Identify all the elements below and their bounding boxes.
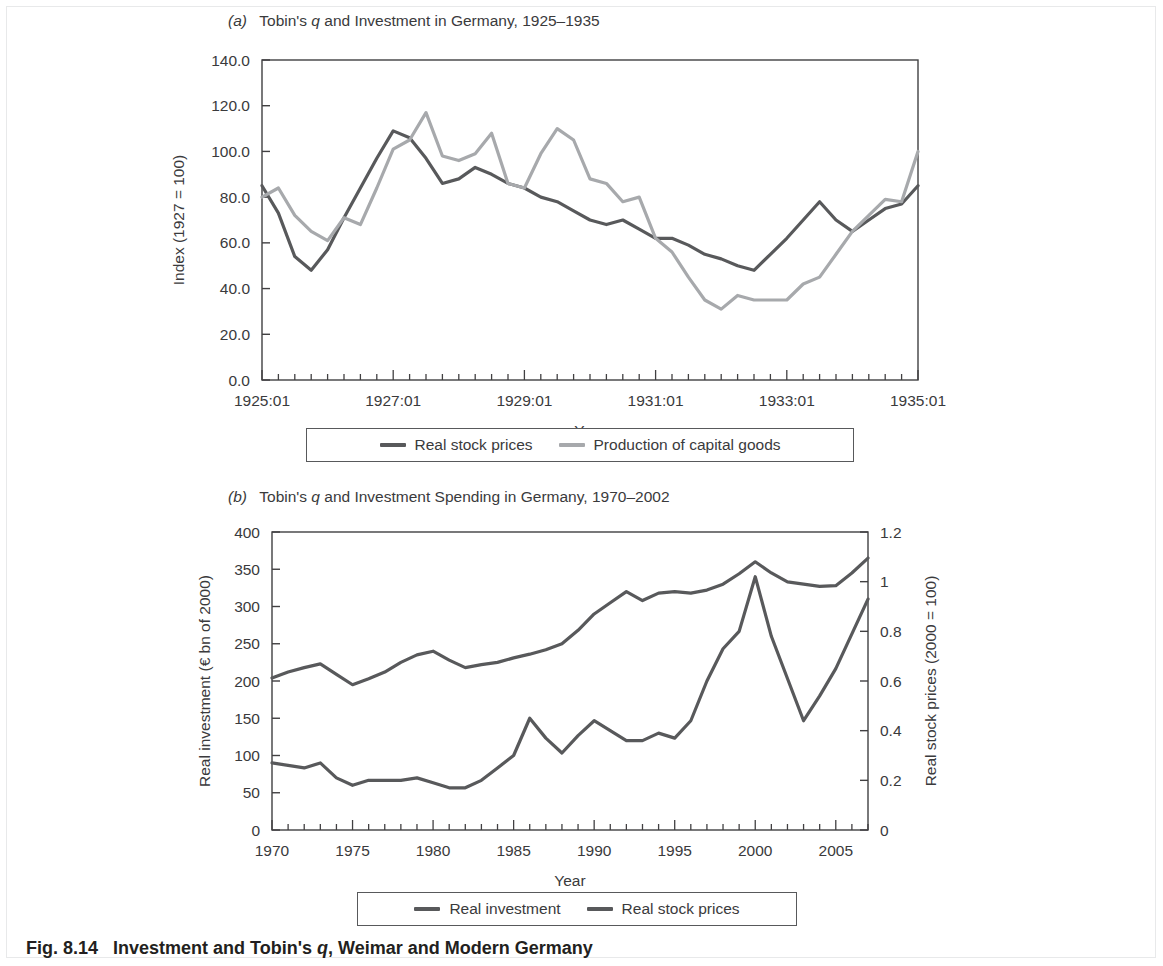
legend-item-label: Real stock prices	[622, 900, 740, 918]
panel-b-y-left-tick-label: 350	[234, 561, 260, 578]
panel-b-legend-item: Real stock prices	[587, 900, 740, 918]
panel-b-y-right-tick-label: 1	[880, 573, 889, 590]
panel-b-x-tick-label: 1975	[335, 842, 369, 859]
panel-b-x-tick-label: 1995	[657, 842, 691, 859]
panel-a-y-tick-label: 80.0	[220, 189, 251, 206]
legend-color-swatch	[380, 443, 406, 447]
panel-b-y-right-tick-label: 0.6	[880, 673, 902, 690]
panel-a-y-tick-label: 40.0	[220, 280, 251, 297]
panel-b-y-right-tick-label: 1.2	[880, 524, 902, 541]
panel-b-y-right-tick-label: 0.4	[880, 722, 902, 739]
panel-a-title: (a) Tobin's q and Investment in Germany,…	[228, 12, 600, 30]
legend-color-swatch	[414, 907, 440, 911]
panel-b-y-left-axis-title: Real investment (€ bn of 2000)	[196, 575, 213, 787]
panel-a-label: (a)	[228, 12, 247, 29]
panel-a-x-tick-label: 1935:01	[890, 392, 946, 409]
figure-caption-number: Fig. 8.14	[26, 938, 98, 958]
panel-a-x-tick-label: 1929:01	[496, 392, 552, 409]
panel-a-series-real-stock-prices	[262, 131, 918, 270]
panel-b-y-left-tick-label: 400	[234, 524, 260, 541]
panel-a-title-text: Tobin's q and Investment in Germany, 192…	[259, 12, 599, 29]
panel-b-x-tick-label: 1990	[577, 842, 612, 859]
legend-item-label: Real investment	[449, 900, 560, 918]
panel-b-y-left-tick-label: 300	[234, 598, 260, 615]
panel-b-y-left-tick-label: 50	[243, 784, 261, 801]
panel-a-y-tick-label: 60.0	[220, 234, 251, 251]
panel-b-y-right-tick-label: 0.2	[880, 772, 902, 789]
panel-b-x-tick-label: 2005	[819, 842, 853, 859]
panel-b-x-tick-label: 1985	[496, 842, 530, 859]
legend-item-label: Real stock prices	[415, 436, 533, 454]
panel-b-y-left-tick-label: 200	[234, 673, 260, 690]
panel-b-chart: 05010015020025030035040000.20.40.60.811.…	[0, 512, 1163, 892]
panel-a: (a) Tobin's q and Investment in Germany,…	[0, 0, 1163, 480]
panel-a-x-tick-label: 1931:01	[628, 392, 684, 409]
figure-caption: Fig. 8.14 Investment and Tobin's q, Weim…	[26, 938, 1126, 959]
panel-a-legend-item: Production of capital goods	[559, 436, 781, 454]
panel-b: (b) Tobin's q and Investment Spending in…	[0, 480, 1163, 940]
panel-a-y-axis-title: Index (1927 = 100)	[170, 155, 187, 286]
legend-color-swatch	[587, 907, 613, 911]
figure-caption-text: Investment and Tobin's q, Weimar and Mod…	[113, 938, 593, 958]
panel-a-x-tick-label: 1933:01	[759, 392, 815, 409]
panel-b-y-left-tick-label: 250	[234, 635, 260, 652]
panel-b-legend: Real investmentReal stock prices	[357, 892, 797, 926]
panel-b-title: (b) Tobin's q and Investment Spending in…	[228, 488, 670, 506]
panel-a-series-production-of-capital-goods	[262, 113, 918, 310]
panel-b-y-left-tick-label: 0	[251, 822, 260, 839]
panel-a-x-tick-label: 1925:01	[234, 392, 290, 409]
panel-a-y-tick-label: 100.0	[211, 143, 250, 160]
panel-b-x-axis-title: Year	[554, 872, 585, 889]
panel-a-x-tick-label: 1927:01	[365, 392, 421, 409]
panel-b-legend-item: Real investment	[414, 900, 560, 918]
panel-b-y-right-tick-label: 0	[880, 822, 889, 839]
legend-color-swatch	[559, 443, 585, 447]
legend-item-label: Production of capital goods	[594, 436, 781, 454]
panel-a-y-tick-label: 0.0	[228, 372, 250, 389]
panel-b-y-left-tick-label: 100	[234, 747, 260, 764]
panel-b-label: (b)	[228, 488, 247, 505]
panel-a-legend: Real stock pricesProduction of capital g…	[306, 428, 854, 462]
panel-b-y-right-axis-title: Real stock prices (2000 = 100)	[922, 576, 939, 787]
panel-a-y-tick-label: 120.0	[211, 97, 250, 114]
panel-b-x-tick-label: 1980	[416, 842, 451, 859]
panel-b-y-right-tick-label: 0.8	[880, 623, 902, 640]
panel-a-legend-item: Real stock prices	[380, 436, 533, 454]
panel-a-y-tick-label: 20.0	[220, 326, 251, 343]
panel-b-y-left-tick-label: 150	[234, 710, 260, 727]
panel-b-x-tick-label: 2000	[738, 842, 773, 859]
panel-a-chart: 0.020.040.060.080.0100.0120.0140.01925:0…	[0, 40, 1163, 440]
panel-b-title-text: Tobin's q and Investment Spending in Ger…	[259, 488, 669, 505]
panel-b-series-real-investment	[272, 558, 868, 685]
panel-b-x-tick-label: 1970	[255, 842, 290, 859]
panel-a-y-tick-label: 140.0	[211, 52, 250, 69]
